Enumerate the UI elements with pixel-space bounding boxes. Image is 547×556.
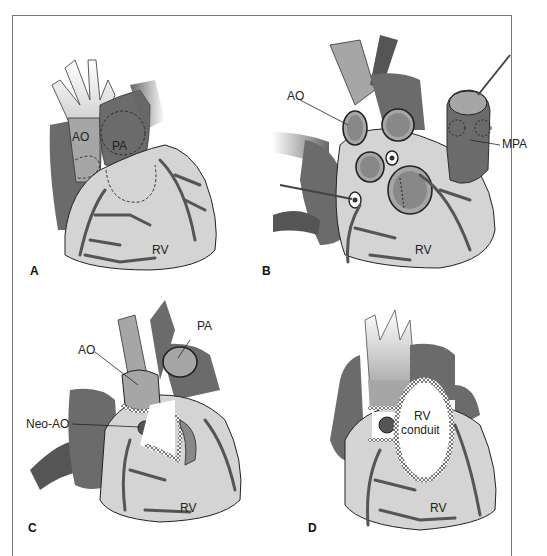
label-rv-conduit: RV [414, 409, 430, 423]
label-neo-ao: Neo-AO [26, 417, 69, 431]
label-rv: RV [430, 501, 446, 515]
label-rv: RV [415, 243, 431, 257]
label-ao: AO [78, 343, 95, 357]
panel-label-b: B [262, 264, 271, 278]
panel-a: AO PA RV A [30, 60, 216, 278]
panel-label-a: A [30, 264, 39, 278]
label-pa: PA [112, 139, 127, 153]
label-conduit: conduit [401, 423, 440, 437]
label-rv: RV [152, 243, 168, 257]
panel-c: PA AO Neo-AO RV C [26, 300, 241, 535]
panel-label-c: C [28, 521, 37, 535]
label-mpa: MPA [502, 137, 527, 151]
label-ao: AO [287, 89, 304, 103]
panel-label-d: D [308, 521, 317, 535]
panel-d: RV conduit RV D [308, 310, 496, 535]
label-rv: RV [180, 501, 196, 515]
panel-b: AO MPA RV B [262, 35, 527, 278]
label-pa: PA [197, 319, 212, 333]
label-ao: AO [72, 130, 89, 144]
